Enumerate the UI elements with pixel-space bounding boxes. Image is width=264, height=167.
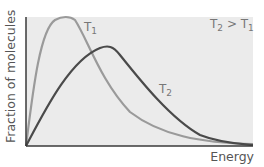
label-t2-sub: 2 xyxy=(166,88,172,98)
label-t1-sub: 1 xyxy=(91,26,97,36)
cmp-op: > xyxy=(223,17,241,31)
label-t1: T1 xyxy=(84,20,97,36)
label-comparison: T2 > T1 xyxy=(210,17,254,33)
cmp-b-sub: 1 xyxy=(248,23,254,33)
cmp-b: T xyxy=(241,17,248,31)
plot-background xyxy=(26,17,253,146)
x-axis-label: Energy xyxy=(210,149,254,164)
label-t2: T2 xyxy=(159,82,172,98)
y-axis-label: Fraction of molecules xyxy=(3,23,19,143)
